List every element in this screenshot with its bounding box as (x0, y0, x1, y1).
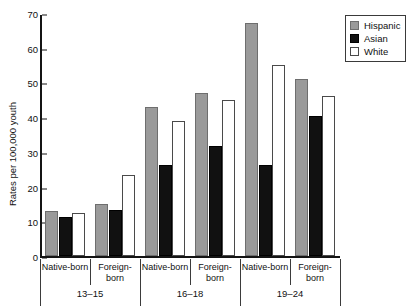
y-tick-label: 40 (27, 114, 38, 124)
x-group-label: 19–24 (240, 288, 340, 299)
legend-label: Hispanic (364, 21, 400, 31)
bar-hispanic (195, 93, 208, 256)
y-tick-mark (42, 258, 47, 259)
bar-asian (109, 210, 122, 256)
x-tick-label: Foreign-born (290, 262, 340, 284)
y-tick-label: 20 (27, 184, 38, 194)
bar-asian (159, 165, 172, 256)
bar-hispanic (295, 79, 308, 256)
x-tick-label: Native-born (240, 262, 290, 273)
bar-group (192, 15, 242, 256)
x-tick-label: Foreign-born (190, 262, 240, 284)
legend-item-white[interactable]: White (350, 45, 400, 58)
y-tick-label: 0 (33, 253, 38, 263)
bar-group (92, 15, 142, 256)
bar-asian (209, 146, 222, 256)
bar-hispanic (45, 211, 58, 256)
legend: HispanicAsianWhite (345, 15, 406, 62)
y-axis-title: Rates per 100,000 youth (7, 74, 18, 234)
bar-asian (309, 116, 322, 256)
legend-swatch-icon (350, 21, 359, 30)
y-tick-label: 60 (27, 45, 38, 55)
bar-white (72, 213, 85, 256)
x-tick-label: Foreign-born (90, 262, 140, 284)
clipped-title-remnant (40, 0, 270, 5)
legend-item-hispanic[interactable]: Hispanic (350, 19, 400, 32)
bar-hispanic (95, 204, 108, 256)
bar-chart: Rates per 100,000 youth 010203040506070 … (0, 0, 418, 307)
bar-white (122, 175, 135, 256)
legend-label: Asian (364, 34, 388, 44)
x-axis-group-separator (340, 259, 341, 306)
y-tick-label: 70 (27, 10, 38, 20)
legend-swatch-icon (350, 47, 359, 56)
bar-group (142, 15, 192, 256)
x-tick-label: Native-born (40, 262, 90, 273)
bar-group (292, 15, 342, 256)
bar-group (242, 15, 292, 256)
plot-area: 010203040506070 (40, 15, 340, 258)
bar-white (322, 96, 335, 256)
bar-hispanic (245, 23, 258, 256)
bar-white (172, 121, 185, 256)
x-tick-label: Native-born (140, 262, 190, 273)
x-group-label: 13–15 (40, 288, 140, 299)
bar-asian (59, 217, 72, 256)
legend-swatch-icon (350, 34, 359, 43)
legend-item-asian[interactable]: Asian (350, 32, 400, 45)
bar-group (42, 15, 92, 256)
bar-hispanic (145, 107, 158, 256)
y-tick-label: 10 (27, 219, 38, 229)
y-tick-label: 30 (27, 149, 38, 159)
y-tick-label: 50 (27, 80, 38, 90)
bar-white (222, 100, 235, 256)
x-group-label: 16–18 (140, 288, 240, 299)
bar-white (272, 65, 285, 256)
bar-asian (259, 165, 272, 256)
legend-label: White (364, 47, 388, 57)
